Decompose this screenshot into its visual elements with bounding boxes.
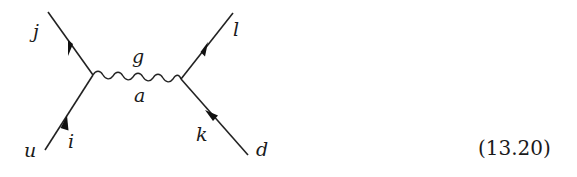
label-j: j bbox=[29, 20, 39, 42]
label-l: l bbox=[233, 18, 239, 40]
label-u: u bbox=[24, 139, 36, 161]
arrow-icon-j bbox=[68, 40, 73, 56]
gluon-propagator bbox=[93, 71, 181, 82]
label-k: k bbox=[196, 123, 208, 145]
label-d: d bbox=[256, 138, 268, 160]
label-i: i bbox=[68, 130, 74, 152]
arrow-icon-l bbox=[201, 42, 209, 57]
equation-number: (13.20) bbox=[478, 136, 551, 160]
label-a: a bbox=[134, 84, 145, 106]
label-g: g bbox=[132, 45, 144, 67]
